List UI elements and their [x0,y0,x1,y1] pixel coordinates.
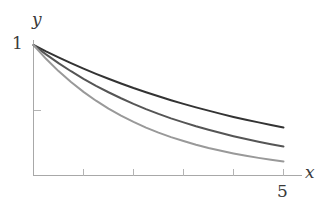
data-curve-0 [34,45,284,127]
x-axis-tick-label-5: 5 [277,183,288,200]
y-axis-tick-label-1: 1 [12,35,23,52]
chart-figure: y x 1 5 [0,0,332,219]
series-group [34,45,284,161]
x-axis-label: x [305,164,315,181]
axis-group [34,40,303,176]
y-axis-label: y [32,11,42,28]
